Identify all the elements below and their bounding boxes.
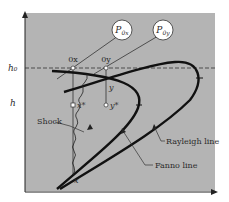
label-x-star: x* [77, 101, 86, 110]
point-y-star [104, 103, 108, 107]
y-reference-label-h0: h₀ [8, 63, 18, 73]
shock-label: Shock [37, 117, 62, 126]
label-y: y [108, 83, 114, 92]
label-0x: 0x [68, 55, 78, 64]
label-0y: 0y [101, 55, 111, 64]
rayleigh-line-label: Rayleigh line [166, 137, 219, 146]
p0y-bubble: P0y [153, 20, 173, 40]
fanno-line-label: Fanno line [155, 161, 198, 170]
point-0x [71, 66, 75, 70]
point-x-star [71, 103, 75, 107]
p0x-bubble: P0x [112, 20, 132, 40]
label-x: x [74, 176, 79, 185]
label-y-star: y* [109, 101, 119, 110]
y-axis-label-h: h [10, 98, 16, 108]
fanno-rayleigh-diagram: P0x P0y 0x 0y y x* y* x h₀ h Shock Rayle… [0, 0, 229, 202]
point-0y [104, 66, 108, 70]
